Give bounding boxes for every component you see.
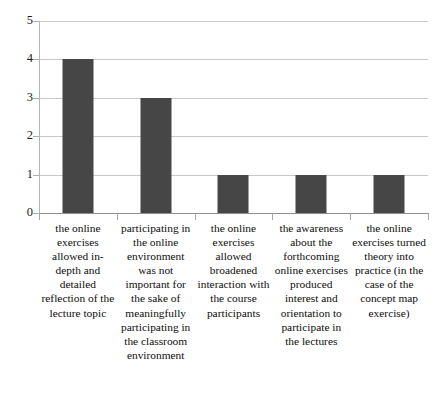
y-axis-tick-label: 5 (7, 14, 33, 26)
x-axis-category-labels: the online exercises allowed in-depth an… (39, 221, 428, 417)
bar[interactable] (140, 98, 171, 213)
x-axis-tick (350, 213, 351, 220)
x-axis-category-label: the online exercises turned theory into … (350, 221, 428, 320)
bar[interactable] (218, 175, 249, 213)
x-axis-line (39, 213, 428, 214)
bar-slot (39, 21, 117, 213)
y-axis-tick-label: 1 (7, 168, 33, 180)
x-axis-tick (117, 213, 118, 220)
x-axis-tick (195, 213, 196, 220)
y-axis-tick-labels: 012345 (0, 0, 33, 417)
bar-slot (272, 21, 350, 213)
x-axis-category-label: the online exercises allowed broadened i… (195, 221, 273, 320)
x-axis-category-label: the awareness about the forthcoming onli… (272, 221, 350, 348)
bar-slot (195, 21, 273, 213)
y-axis-tick-label: 4 (7, 52, 33, 64)
x-axis-category-label: participating in the online environment … (117, 221, 195, 362)
x-axis-tick (428, 213, 429, 220)
bar-slot (117, 21, 195, 213)
y-axis-tick-label: 2 (7, 129, 33, 141)
y-axis-tick-label: 0 (7, 206, 33, 218)
bar-chart: 012345 the online exercises allowed in-d… (0, 0, 434, 417)
bar[interactable] (374, 175, 405, 213)
bar[interactable] (296, 175, 327, 213)
x-axis-tick (272, 213, 273, 220)
x-axis-tick (39, 213, 40, 220)
bars-layer (39, 21, 428, 213)
bar[interactable] (62, 59, 93, 213)
bar-slot (350, 21, 428, 213)
y-axis-tick-label: 3 (7, 91, 33, 103)
x-axis-category-label: the online exercises allowed in-depth an… (39, 221, 117, 320)
